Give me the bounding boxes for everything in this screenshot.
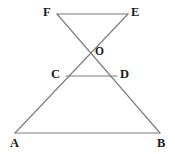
vertex-label-O: O <box>95 46 104 58</box>
vertex-label-E: E <box>131 6 139 19</box>
figure-canvas <box>0 0 175 154</box>
geometry-figure: F E O C D A B <box>0 0 175 154</box>
vertex-label-F: F <box>43 6 51 19</box>
vertex-label-D: D <box>120 68 129 81</box>
vertex-label-A: A <box>10 137 19 150</box>
segment-EA <box>15 14 128 133</box>
vertex-label-C: C <box>51 68 60 81</box>
segment-FB <box>57 14 160 133</box>
vertex-label-B: B <box>157 137 165 150</box>
